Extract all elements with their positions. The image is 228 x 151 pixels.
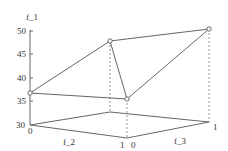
z-tick-label: 45 bbox=[17, 49, 27, 59]
x-tick-label: 1 bbox=[120, 140, 125, 150]
surface-chart: f_1 50 45 40 35 30 0 1 f_2 0 1 f_3 bbox=[0, 0, 228, 151]
edge bbox=[127, 29, 209, 99]
edge bbox=[110, 29, 209, 41]
x-axis bbox=[30, 125, 127, 138]
z-tick-label: 50 bbox=[17, 26, 27, 36]
z-tick-label: 35 bbox=[17, 96, 27, 106]
data-point bbox=[125, 97, 129, 101]
x-tick-label: 0 bbox=[28, 126, 33, 136]
base-back-edge bbox=[30, 112, 110, 125]
y-axis-label: f_3 bbox=[174, 136, 186, 146]
z-tick-label: 40 bbox=[17, 73, 27, 83]
data-point bbox=[207, 27, 211, 31]
z-axis-label: f_1 bbox=[26, 12, 38, 22]
y-tick-label: 1 bbox=[213, 122, 218, 132]
x-axis-label: f_2 bbox=[63, 137, 75, 147]
base-far-edge bbox=[110, 112, 209, 122]
y-tick-label: 0 bbox=[131, 140, 136, 150]
edge bbox=[30, 41, 110, 93]
data-point bbox=[28, 91, 32, 95]
z-tick-label: 30 bbox=[16, 120, 26, 130]
edge bbox=[110, 41, 127, 99]
y-axis bbox=[127, 122, 209, 138]
edge bbox=[30, 93, 127, 99]
data-point bbox=[108, 39, 112, 43]
